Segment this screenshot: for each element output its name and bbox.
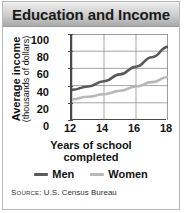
x-tick-18: 18 [160,122,172,134]
y-axis-tick-labels: 020406080100 [21,34,49,120]
source-label: Source: [11,188,42,197]
y-tick-mark-60 [68,68,73,69]
legend-label-men: Men [52,168,74,180]
source-note: Source: U.S. Census Bureau [11,188,177,197]
y-tick-60: 60 [37,68,49,80]
plot-svg [72,34,168,120]
y-tick-mark-40 [68,86,73,87]
y-tick-0: 0 [43,120,49,132]
y-tick-mark-100 [68,34,73,35]
x-axis-label-line2: completed [3,151,179,163]
x-axis-label: Years of school completed [3,139,179,163]
x-tick-12: 12 [64,122,76,134]
figure-panel: Education and Income Average income (tho… [0,0,184,213]
legend-swatch-men [34,173,48,176]
y-tick-80: 80 [37,51,49,63]
series-lines [72,47,168,99]
gridlines [72,34,168,120]
figure-title-bar: Education and Income [3,2,179,27]
x-axis-label-line1: Years of school [3,139,179,151]
legend-label-women: Women [108,168,148,180]
legend-swatch-women [90,173,104,176]
series-line-women [72,77,168,99]
source-text: U.S. Census Bureau [42,188,117,197]
legend-item-men[interactable]: Men [34,168,74,180]
chart-legend: MenWomen [3,167,179,181]
page-title: Education and Income [12,6,170,23]
plot-inner [72,34,166,119]
y-tick-40: 40 [37,86,49,98]
legend-item-women[interactable]: Women [90,168,148,180]
x-tick-14: 14 [96,122,108,134]
chart-area: Average income (thousands of dollars) 02… [3,28,179,208]
y-tick-mark-0 [68,120,73,121]
y-tick-mark-80 [68,51,73,52]
y-tick-100: 100 [31,34,49,46]
x-tick-16: 16 [128,122,140,134]
y-tick-mark-20 [68,103,73,104]
plot-box [70,34,166,120]
x-axis-tick-labels: 12141618 [70,122,166,138]
y-tick-20: 20 [37,103,49,115]
